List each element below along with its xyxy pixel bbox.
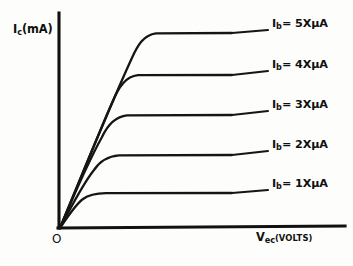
curve-ib-4x bbox=[60, 75, 232, 228]
y-axis-label-unit: (mA) bbox=[22, 22, 53, 36]
curve-ib-5x bbox=[60, 33, 232, 228]
lead-line-ib-2x bbox=[232, 151, 268, 155]
curve-label-value-5x: = 5XμA bbox=[282, 17, 328, 30]
curve-label-ib-5x: Ib= 5XμA bbox=[272, 18, 328, 30]
x-axis-label-main: V bbox=[256, 230, 265, 244]
x-axis-label: Vec(VOLTS) bbox=[256, 230, 312, 245]
curve-label-value-4x: = 4XμA bbox=[282, 58, 328, 71]
characteristic-curve-figure: Ic(mA) Vec(VOLTS) O Ib= 5XμA Ib= 4XμA Ib… bbox=[0, 0, 353, 266]
lead-line-ib-3x bbox=[232, 111, 268, 115]
origin-label: O bbox=[52, 232, 61, 246]
lead-line-ib-4x bbox=[232, 71, 268, 75]
lead-line-ib-1x bbox=[232, 190, 268, 193]
y-axis-label: Ic(mA) bbox=[13, 22, 53, 37]
x-axis bbox=[58, 226, 345, 228]
curve-label-value-1x: = 1XμA bbox=[282, 177, 328, 190]
curve-label-ib-3x: Ib= 3XμA bbox=[272, 99, 328, 111]
x-axis-label-subscript: ec bbox=[265, 235, 275, 245]
curve-label-ib-2x: Ib= 2XμA bbox=[272, 139, 328, 151]
x-axis-label-unit: (VOLTS) bbox=[275, 233, 313, 243]
curve-label-value-3x: = 3XμA bbox=[282, 98, 328, 111]
curve-ib-3x bbox=[60, 115, 232, 228]
curve-label-value-2x: = 2XμA bbox=[282, 138, 328, 151]
curve-label-ib-4x: Ib= 4XμA bbox=[272, 59, 328, 71]
curve-label-ib-1x: Ib= 1XμA bbox=[272, 178, 328, 190]
plot-canvas bbox=[0, 0, 353, 266]
lead-line-ib-5x bbox=[232, 30, 268, 33]
curve-ib-1x bbox=[60, 193, 232, 228]
